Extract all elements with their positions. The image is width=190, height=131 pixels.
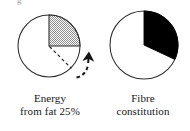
pie-chart-energy-from-fat <box>18 15 80 77</box>
pie-chart-fibre-constitution <box>110 11 178 79</box>
caption-energy-line1: Energy <box>4 92 96 105</box>
caption-fibre-constitution: Fibre constitution <box>98 92 188 118</box>
figure-root: g <box>0 0 190 131</box>
caption-fibre-line1: Fibre <box>98 92 188 105</box>
caption-energy-line2: from fat 25% <box>4 105 96 118</box>
caption-energy-from-fat: Energy from fat 25% <box>4 92 96 118</box>
curved-dashed-arrow <box>77 57 89 78</box>
caption-fibre-line2: constitution <box>98 105 188 118</box>
pie-slice-energy-from-fat <box>49 15 80 46</box>
